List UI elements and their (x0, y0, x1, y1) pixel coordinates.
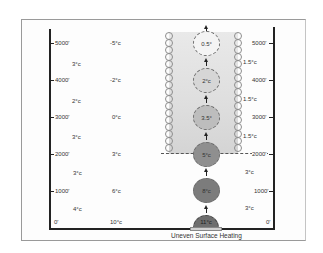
left-altitude-label: 4000' (55, 77, 70, 84)
environment-temp-label: -2°c (110, 77, 121, 84)
environment-temp-label: 6°c (112, 188, 121, 195)
right-lapse-label: 3°c (245, 169, 254, 176)
arrow-up-icon (206, 61, 207, 66)
figure-frame (21, 19, 306, 241)
arrow-up-icon (206, 98, 207, 103)
ground-line (49, 228, 275, 230)
right-altitude-label: 5000' (252, 40, 267, 47)
right-altitude-label: 2000' (252, 151, 267, 158)
left-tick-1000 (50, 191, 54, 192)
right-tick-4000 (269, 80, 273, 81)
right-tick-3000 (269, 117, 273, 118)
air-parcel-5000: 0.5° (193, 31, 220, 56)
left-lapse-label: 3°c (72, 134, 81, 141)
arrow-up-icon (206, 135, 207, 140)
left-altitude-label: 3000' (55, 114, 70, 121)
left-lapse-label: 2°c (72, 98, 81, 105)
left-altitude-label: 1000' (55, 188, 70, 195)
right-axis-line (273, 27, 275, 230)
right-altitude-label: 0' (266, 219, 270, 226)
left-altitude-label: 0' (54, 219, 58, 226)
diagram-caption: Uneven Surface Heating (171, 232, 242, 239)
environment-temp-label: 10°c (110, 219, 122, 226)
arrow-up-icon (206, 208, 207, 213)
left-axis-line (49, 29, 51, 230)
air-parcel-4000: 2°c (193, 68, 220, 93)
parcel-temp-label: 11°c (200, 219, 212, 225)
environment-temp-label: 3°c (112, 151, 121, 158)
air-parcel-1000: 8°c (193, 178, 220, 203)
air-parcel-3000: 3.5° (193, 105, 220, 130)
right-altitude-label: 3000' (252, 114, 267, 121)
environment-temp-label: -5°c (110, 40, 121, 47)
right-lapse-label: 3°c (245, 205, 254, 212)
right-tick-1000 (269, 191, 273, 192)
environment-temp-label: 0°c (112, 114, 121, 121)
right-altitude-label: 4000' (252, 77, 267, 84)
parcel-temp-label: 8°c (202, 188, 211, 194)
right-lapse-label: 1.5°c (243, 59, 257, 66)
right-lapse-label: 1.5°c (243, 96, 257, 103)
right-altitude-label: 1000' (254, 188, 269, 195)
right-tick-5000 (269, 43, 273, 44)
air-parcel-2000: 5°c (193, 142, 220, 167)
heated-surface (190, 227, 222, 231)
left-lapse-label: 4°c (73, 206, 82, 213)
left-lapse-label: 3°c (73, 170, 82, 177)
right-tick-2000 (269, 154, 273, 155)
left-tick-5000 (50, 43, 54, 44)
left-lapse-label: 3°c (72, 61, 81, 68)
right-lapse-label: 1.5°c (243, 133, 257, 140)
left-tick-3000 (50, 117, 54, 118)
parcel-temp-label: 0.5° (201, 41, 212, 47)
parcel-temp-label: 2°c (202, 78, 211, 84)
left-tick-4000 (50, 80, 54, 81)
left-tick-2000 (50, 154, 54, 155)
left-altitude-label: 2000' (55, 151, 70, 158)
parcel-temp-label: 5°c (202, 152, 211, 158)
parcel-temp-label: 3.5° (201, 115, 212, 121)
left-altitude-label: 5000' (55, 40, 70, 47)
arrow-up-icon (206, 171, 207, 176)
